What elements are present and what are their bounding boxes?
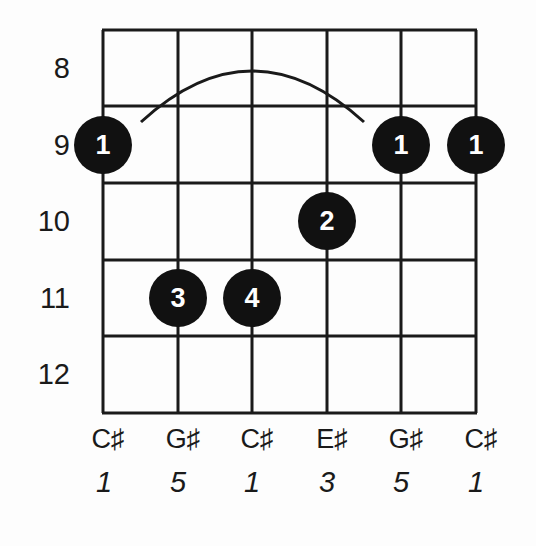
fret-label-10: 10 bbox=[10, 205, 70, 238]
interval-string-6: 1 bbox=[446, 466, 506, 499]
finger-dot-string-6: 1 bbox=[447, 116, 505, 174]
finger-dot-string-2: 3 bbox=[149, 269, 207, 327]
finger-dot-string-4: 2 bbox=[298, 192, 356, 250]
finger-dot-string-3: 4 bbox=[223, 269, 281, 327]
interval-string-3: 1 bbox=[222, 466, 282, 499]
note-string-1: C♯ bbox=[78, 424, 138, 455]
fret-label-9: 9 bbox=[10, 129, 70, 162]
note-string-4: E♯ bbox=[302, 424, 362, 455]
note-string-5: G♯ bbox=[376, 424, 436, 455]
interval-string-2: 5 bbox=[148, 466, 208, 499]
chord-diagram: 8 9 10 11 12 1 3 4 2 1 1 C♯ G♯ C♯ E♯ G♯ … bbox=[0, 0, 536, 546]
note-string-2: G♯ bbox=[153, 424, 213, 455]
finger-dot-string-5: 1 bbox=[372, 116, 430, 174]
finger-dot-string-1: 1 bbox=[74, 116, 132, 174]
note-string-3: C♯ bbox=[227, 424, 287, 455]
interval-string-1: 1 bbox=[74, 466, 134, 499]
fret-label-12: 12 bbox=[10, 358, 70, 391]
fret-label-11: 11 bbox=[10, 282, 70, 315]
note-string-6: C♯ bbox=[451, 424, 511, 455]
fret-label-8: 8 bbox=[10, 52, 70, 85]
interval-string-5: 5 bbox=[371, 466, 431, 499]
interval-string-4: 3 bbox=[297, 466, 357, 499]
